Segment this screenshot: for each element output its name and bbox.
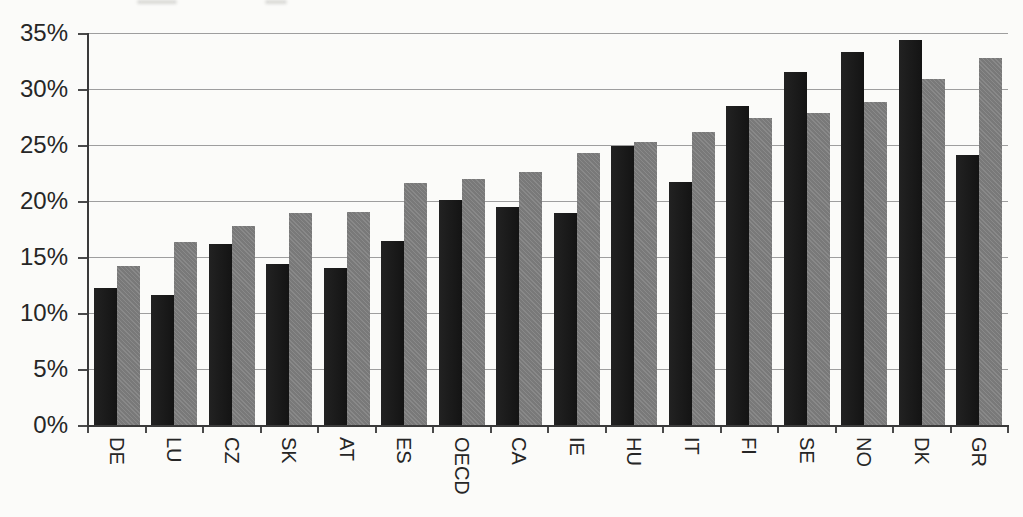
x-axis-category-label-HU: HU	[622, 437, 646, 466]
y-axis-line	[87, 33, 89, 425]
x-axis-category-label-LU: LU	[162, 437, 186, 463]
x-axis-category-label-CZ: CZ	[220, 437, 244, 464]
x-axis-category-label-OECD: OECD	[450, 437, 474, 495]
bar-gray-CZ	[232, 226, 255, 425]
bar-gray-ES	[404, 183, 427, 425]
x-axis-tick-mark	[950, 427, 952, 433]
bar-gray-FI	[749, 118, 772, 425]
y-axis-tick-label: 15%	[10, 245, 68, 269]
x-axis-category-label-CA: CA	[507, 437, 531, 465]
x-axis-category-label-ES: ES	[392, 437, 416, 464]
bar-black-NO	[841, 52, 864, 425]
x-axis-category-label-AT: AT	[335, 437, 359, 461]
bar-black-CA	[496, 207, 519, 425]
x-axis-tick-mark	[605, 427, 607, 433]
bar-gray-AT	[347, 212, 370, 425]
bar-gray-DE	[117, 266, 140, 425]
x-axis-tick-mark	[720, 427, 722, 433]
x-axis-category-label-NO: NO	[852, 437, 876, 467]
bar-black-HU	[611, 146, 634, 425]
x-axis-category-label-DK: DK	[910, 437, 934, 465]
bar-black-AT	[324, 268, 347, 425]
x-axis-tick-mark	[547, 427, 549, 433]
x-axis-tick-mark	[317, 427, 319, 433]
bar-gray-LU	[174, 242, 197, 425]
bar-black-CZ	[209, 244, 232, 425]
x-axis-tick-mark	[87, 427, 89, 433]
x-axis-tick-mark	[490, 427, 492, 433]
bar-black-OECD	[439, 200, 462, 425]
bar-black-GR	[956, 155, 979, 425]
bar-gray-IE	[577, 153, 600, 425]
x-axis-tick-mark	[892, 427, 894, 433]
bar-gray-DK	[922, 79, 945, 425]
bar-black-DK	[899, 40, 922, 425]
bar-black-LU	[151, 295, 174, 425]
y-axis-tick-label: 20%	[10, 189, 68, 213]
bar-black-DE	[94, 288, 117, 425]
x-axis-tick-mark	[835, 427, 837, 433]
x-axis-category-label-SE: SE	[795, 437, 819, 464]
bar-gray-HU	[634, 142, 657, 425]
bar-black-IE	[554, 213, 577, 425]
bar-black-FI	[726, 106, 749, 425]
bar-gray-SE	[807, 113, 830, 425]
bar-black-SK	[266, 264, 289, 425]
bar-gray-NO	[864, 102, 887, 425]
x-axis-category-label-DE: DE	[105, 437, 129, 465]
bar-gray-GR	[979, 58, 1002, 425]
x-axis-tick-mark	[375, 427, 377, 433]
bar-gray-SK	[289, 213, 312, 425]
bar-gray-IT	[692, 132, 715, 425]
x-axis-tick-mark	[145, 427, 147, 433]
x-axis-tick-mark	[432, 427, 434, 433]
y-axis-tick-label: 35%	[10, 21, 68, 45]
x-axis-category-label-SK: SK	[277, 437, 301, 464]
bar-black-IT	[669, 182, 692, 425]
gridline-35pct	[88, 33, 1008, 34]
y-axis-tick-label: 10%	[10, 301, 68, 325]
x-axis-tick-mark	[260, 427, 262, 433]
bar-gray-CA	[519, 172, 542, 425]
x-axis-tick-mark	[202, 427, 204, 433]
bar-black-ES	[381, 241, 404, 425]
x-axis-category-label-FI: FI	[737, 437, 761, 455]
cropped-title-remnant	[137, 0, 177, 4]
x-axis-category-label-IE: IE	[565, 437, 589, 456]
x-axis-tick-mark	[1007, 427, 1009, 433]
scanned-bar-chart-page: 0%5%10%15%20%25%30%35%DELUCZSKATESOECDCA…	[0, 0, 1023, 517]
x-axis-category-label-GR: GR	[967, 437, 991, 467]
x-axis-tick-mark	[662, 427, 664, 433]
bar-gray-OECD	[462, 179, 485, 425]
y-axis-tick-label: 5%	[10, 357, 68, 381]
y-axis-tick-label: 30%	[10, 77, 68, 101]
y-axis-tick-label: 0%	[10, 413, 68, 437]
y-axis-tick-label: 25%	[10, 133, 68, 157]
x-axis-category-label-IT: IT	[680, 437, 704, 455]
x-axis-tick-mark	[777, 427, 779, 433]
bar-black-SE	[784, 72, 807, 425]
gridline-30pct	[88, 89, 1008, 90]
cropped-title-remnant	[265, 0, 287, 4]
